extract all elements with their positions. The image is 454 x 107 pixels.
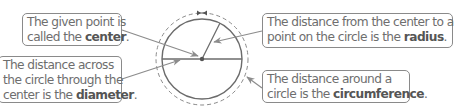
center-callout: The given point is called the center. [22, 13, 122, 46]
center-callout-line2: called the center. [27, 30, 117, 45]
circumference-callout-line1: The distance around a [267, 72, 405, 87]
radius-callout-line2: point on the circle is the radius. [267, 30, 448, 45]
radius-callout: The distance from the center to any poin… [262, 13, 453, 48]
diameter-callout-line1: The distance across [3, 58, 117, 73]
diameter-term: diameter [76, 88, 134, 102]
diameter-callout-line2: the circle through the [3, 73, 117, 88]
diameter-pointer-arrow [122, 60, 180, 79]
center-point [200, 57, 204, 61]
diameter-callout-line3: center is the diameter. [3, 88, 117, 103]
circumference-pointer-arrow [247, 77, 262, 88]
circumference-term: circumference [333, 87, 424, 101]
circumference-start-marker [197, 11, 207, 16]
center-term: center [85, 30, 126, 44]
circumference-callout-line2: circle is the circumference. [267, 87, 405, 102]
radius-term: radius [404, 30, 444, 44]
center-pointer-arrow [122, 30, 198, 56]
center-callout-line1: The given point is [27, 15, 117, 30]
diameter-callout: The distance across the circle through t… [0, 56, 122, 103]
radius-callout-line1: The distance from the center to any [267, 15, 448, 30]
circumference-callout: The distance around a circle is the circ… [262, 70, 410, 103]
